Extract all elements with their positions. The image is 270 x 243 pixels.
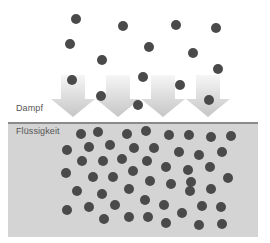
liquid-molecule [161,218,171,228]
vapor-molecule [67,75,77,85]
liquid-molecule [177,208,187,218]
vapor-molecule [213,64,223,74]
liquid-molecule [206,132,216,142]
liquid-molecule [161,162,171,172]
liquid-molecule [117,154,127,164]
liquid-molecule [217,219,227,229]
liquid-molecule [216,202,226,212]
liquid-molecule [164,130,174,140]
liquid-molecule [61,168,71,178]
diagram-graphics [0,0,270,243]
vapor-molecule [144,42,154,52]
liquid-molecule [226,131,236,141]
vapor-molecule [118,21,128,31]
liquid-molecule [141,126,151,136]
liquid-molecule [206,184,216,194]
liquid-molecule [159,200,169,210]
vapor-molecule [65,39,75,49]
vapor-liquid-diagram: Dampf Flüssigkeit [0,0,270,243]
vapor-molecule [133,100,143,110]
vapor-molecule [175,80,185,90]
liquid-molecule [166,179,176,189]
liquid-molecule [98,156,108,166]
liquid-label: Flüssigkeit [16,126,60,136]
liquid-molecule [186,177,196,187]
liquid-molecule [76,129,86,139]
liquid-molecule [105,140,115,150]
vapor-molecule [71,14,81,24]
liquid-molecule [140,195,150,205]
vapor-label: Dampf [16,103,43,113]
liquid-molecule [183,165,193,175]
liquid-molecule [142,156,152,166]
liquid-molecule [84,202,94,212]
vapor-molecule [97,55,107,65]
liquid-molecule [84,142,94,152]
liquid-molecules [61,126,236,230]
liquid-molecule [99,214,109,224]
liquid-molecule [124,184,134,194]
liquid-molecule [122,129,132,139]
liquid-molecule [205,162,215,172]
vapor-molecule [211,23,221,33]
vapor-molecule [204,95,214,105]
liquid-molecule [97,189,107,199]
liquid-molecule [62,145,72,155]
liquid-molecule [174,147,184,157]
liquid-molecule [93,127,103,137]
liquid-molecule [223,173,233,183]
liquid-molecule [194,150,204,160]
liquid-molecule [88,172,98,182]
vapor-molecule [96,91,106,101]
liquid-molecule [128,166,138,176]
liquid-molecule [124,212,134,222]
liquid-molecule [110,200,120,210]
liquid-molecule [184,130,194,140]
liquid-molecule [197,201,207,211]
liquid-molecule [185,186,195,196]
liquid-molecule [62,205,72,215]
vapor-molecule [138,72,148,82]
liquid-molecule [129,143,139,153]
liquid-molecule [149,143,159,153]
liquid-molecule [143,212,153,222]
vapor-molecule [188,48,198,58]
liquid-molecule [77,156,87,166]
vapor-molecule [171,20,181,30]
liquid-molecule [72,186,82,196]
liquid-molecule [108,172,118,182]
liquid-molecule [217,147,227,157]
liquid-molecule [145,176,155,186]
liquid-molecule [194,220,204,230]
